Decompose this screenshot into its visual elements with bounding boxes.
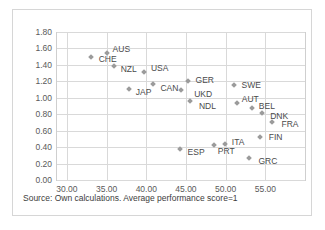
data-point-marker[interactable]: [249, 106, 255, 112]
y-axis-tick-label: 1.00: [12, 93, 52, 103]
data-point-marker[interactable]: [231, 82, 237, 88]
y-axis-tick-label: 1.60: [12, 43, 52, 53]
data-point-marker[interactable]: [151, 81, 157, 87]
data-point-marker[interactable]: [185, 78, 191, 84]
data-point-label: GRC: [258, 157, 277, 166]
data-point-label: NDL: [199, 102, 216, 111]
data-point-marker[interactable]: [247, 155, 253, 161]
y-axis-tick-label: 0.40: [12, 142, 52, 152]
chart-figure: 0.000.200.400.600.801.001.201.401.601.80…: [12, 9, 312, 216]
data-point-marker[interactable]: [211, 143, 217, 149]
source-note: Source: Own calculations. Average perfor…: [23, 193, 238, 203]
gridline-horizontal: [57, 180, 305, 181]
data-point-label: ESP: [188, 148, 205, 157]
data-point-label: AUT: [242, 95, 259, 104]
x-axis-tick-label: 55.00: [243, 184, 287, 194]
data-point-marker[interactable]: [88, 54, 94, 60]
data-point-label: UKD: [194, 90, 212, 99]
data-point-label: FRA: [281, 120, 298, 129]
y-axis-tick-label: 0.80: [12, 109, 52, 119]
y-axis-tick-label: 0.20: [12, 159, 52, 169]
data-point-layer: CHEAUSNZLUSAJAPCANGERUKDNDLSWEAUTBELDNKF…: [57, 32, 305, 180]
y-axis-tick-label: 1.80: [12, 27, 52, 37]
data-point-marker[interactable]: [111, 63, 117, 69]
data-point-label: FIN: [269, 133, 283, 142]
y-axis-tick-label: 1.40: [12, 60, 52, 70]
data-point-marker[interactable]: [141, 69, 147, 75]
data-point-label: GER: [196, 76, 214, 85]
data-point-label: PRT: [218, 147, 235, 156]
data-point-label: SWE: [242, 81, 261, 90]
data-point-label: AUS: [113, 45, 130, 54]
data-point-marker[interactable]: [177, 146, 183, 152]
data-point-marker[interactable]: [234, 100, 240, 106]
plot-area: 0.000.200.400.600.801.001.201.401.601.80…: [56, 32, 306, 181]
data-point-marker[interactable]: [257, 134, 263, 140]
data-point-label: NZL: [121, 65, 137, 74]
data-point-label: USA: [151, 64, 168, 73]
data-point-marker[interactable]: [126, 86, 132, 92]
data-point-marker[interactable]: [178, 88, 184, 94]
data-point-label: ITA: [232, 138, 245, 147]
y-axis-tick-label: 0.60: [12, 126, 52, 136]
data-point-marker[interactable]: [187, 98, 193, 104]
y-axis-tick-label: 1.20: [12, 76, 52, 86]
data-point-label: CAN: [160, 84, 178, 93]
data-point-label: CHE: [99, 55, 117, 64]
data-point-label: JAP: [136, 88, 152, 97]
